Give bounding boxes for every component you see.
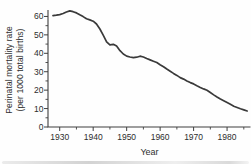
page-edge-shadow: [2, 161, 249, 164]
chart-svg: 0102030405060193019401950196019701980: [0, 0, 251, 164]
chart-figure: Perinatal mortality rate (per 1000 total…: [0, 0, 251, 164]
x-tick-label: 1980: [218, 132, 237, 142]
mortality-rate-line: [53, 11, 247, 111]
x-tick-label: 1940: [84, 132, 103, 142]
y-tick-label: 50: [34, 30, 44, 40]
x-tick-label: 1930: [50, 132, 69, 142]
x-tick-label: 1960: [151, 132, 170, 142]
y-tick-label: 60: [34, 11, 44, 21]
y-tick-label: 10: [34, 104, 44, 114]
y-tick-label: 20: [34, 85, 44, 95]
x-tick-label: 1970: [184, 132, 203, 142]
axis-lines: [48, 10, 251, 127]
y-tick-label: 0: [39, 122, 44, 132]
x-axis-title: Year: [48, 147, 251, 157]
y-tick-label: 30: [34, 67, 44, 77]
x-tick-label: 1950: [117, 132, 136, 142]
y-tick-label: 40: [34, 48, 44, 58]
